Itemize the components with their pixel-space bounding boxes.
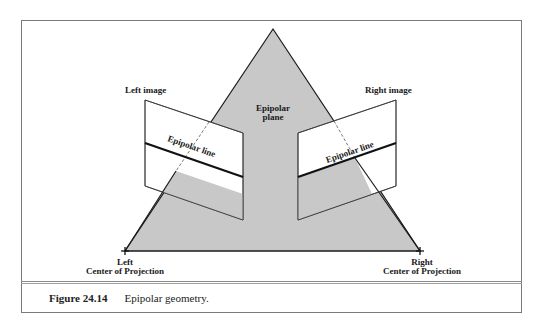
epipolar-plane-label-line2: plane [253, 113, 293, 122]
figure-number: Figure 24.14 [49, 292, 107, 304]
right-cop-label: Right Center of Projection [372, 258, 472, 276]
epipolar-diagram: Epipolar line Epipolar line [0, 0, 544, 328]
figure-caption-text: Epipolar geometry. [124, 292, 208, 304]
epipolar-plane-label: Epipolar plane [253, 104, 293, 122]
figure-caption: Figure 24.14Epipolar geometry. [49, 292, 209, 304]
left-cop-label: Left Center of Projection [75, 258, 175, 276]
right-cop-label-line2: Center of Projection [372, 267, 472, 276]
right-image-label: Right image [365, 86, 412, 95]
left-image-label: Left image [125, 86, 166, 95]
left-cop-label-line2: Center of Projection [75, 267, 175, 276]
